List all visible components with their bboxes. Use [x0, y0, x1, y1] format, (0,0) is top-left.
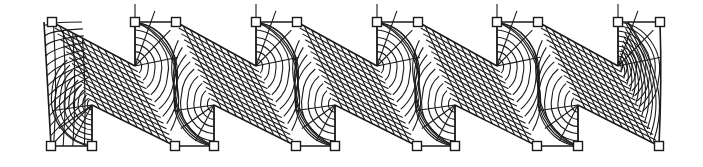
node-marker: [655, 142, 664, 151]
mesh-diagram: [0, 0, 703, 167]
node-marker: [210, 142, 219, 151]
node-marker: [292, 142, 301, 151]
node-marker: [88, 142, 97, 151]
node-marker: [451, 142, 460, 151]
node-marker: [252, 18, 261, 27]
node-marker: [48, 18, 57, 27]
node-marker: [171, 142, 180, 151]
node-marker: [172, 18, 181, 27]
node-marker: [533, 142, 542, 151]
node-marker: [656, 18, 665, 27]
node-marker: [47, 142, 56, 151]
node-marker: [574, 142, 583, 151]
node-marker: [493, 18, 502, 27]
node-marker: [293, 18, 302, 27]
node-marker: [413, 142, 422, 151]
node-marker: [373, 18, 382, 27]
node-marker: [534, 18, 543, 27]
node-marker: [131, 18, 140, 27]
node-marker: [331, 142, 340, 151]
node-marker: [414, 18, 423, 27]
node-marker: [614, 18, 623, 27]
